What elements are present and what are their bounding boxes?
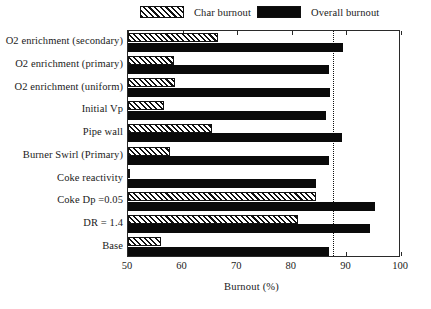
- x-tick-label: 90: [340, 260, 351, 271]
- legend-label-char-burnout: Char burnout: [194, 7, 251, 18]
- chart-legend: Char burnout Overall burnout: [0, 4, 431, 26]
- bar-overall-burnout: [128, 43, 343, 52]
- bar-overall-burnout: [128, 247, 329, 256]
- bar-char-burnout: [128, 56, 174, 65]
- bar-group: [128, 33, 399, 52]
- bar-group: [128, 147, 399, 166]
- bar-char-burnout: [128, 147, 170, 156]
- category-label: Pipe wall: [0, 126, 123, 137]
- x-tick-label: 100: [392, 260, 408, 271]
- bar-overall-burnout: [128, 133, 342, 142]
- category-label: Initial Vp: [0, 103, 123, 114]
- bar-overall-burnout: [128, 111, 326, 120]
- hatched-swatch-icon: [140, 6, 184, 18]
- bar-char-burnout: [128, 33, 218, 42]
- bar-char-burnout: [128, 124, 212, 133]
- bar-overall-burnout: [128, 179, 316, 188]
- x-axis-tick-labels: 5060708090100: [0, 260, 431, 276]
- bar-overall-burnout: [128, 202, 375, 211]
- x-axis-title: Burnout (%): [0, 281, 431, 292]
- plot-area: [127, 30, 400, 257]
- legend-label-overall-burnout: Overall burnout: [311, 7, 379, 18]
- bar-group: [128, 124, 399, 143]
- legend-entry-char-burnout: Char burnout: [140, 6, 251, 18]
- bar-char-burnout: [128, 78, 175, 87]
- bar-char-burnout: [128, 192, 316, 201]
- burnout-bar-chart: Char burnout Overall burnout O2 enrichme…: [0, 0, 431, 309]
- bar-group: [128, 169, 399, 188]
- category-label: Coke reactivity: [0, 172, 123, 183]
- category-label: O2 enrichment (secondary): [0, 35, 123, 46]
- category-label: Base: [0, 240, 123, 251]
- x-tick-mark: [401, 31, 402, 35]
- category-axis-labels: O2 enrichment (secondary) O2 enrichment …: [0, 30, 123, 257]
- bar-overall-burnout: [128, 65, 329, 74]
- x-tick-label: 60: [176, 260, 187, 271]
- category-label: Coke Dp =0.05: [0, 194, 123, 205]
- bar-overall-burnout: [128, 156, 329, 165]
- bar-overall-burnout: [128, 88, 330, 97]
- x-tick-mark: [401, 252, 402, 256]
- category-label: Burner Swirl (Primary): [0, 149, 123, 160]
- bar-group: [128, 101, 399, 120]
- bar-group: [128, 56, 399, 75]
- bar-series-container: [128, 31, 399, 256]
- bar-char-burnout: [128, 237, 161, 246]
- bar-char-burnout: [128, 169, 130, 178]
- category-label: O2 enrichment (uniform): [0, 81, 123, 92]
- x-tick-label: 80: [286, 260, 297, 271]
- bar-group: [128, 192, 399, 211]
- legend-entry-overall-burnout: Overall burnout: [257, 6, 379, 18]
- bar-char-burnout: [128, 101, 164, 110]
- x-axis-title-text: Burnout (%): [224, 281, 279, 292]
- x-tick-label: 50: [122, 260, 133, 271]
- solid-black-swatch-icon: [257, 6, 301, 18]
- bar-overall-burnout: [128, 224, 370, 233]
- category-label: O2 enrichment (primary): [0, 58, 123, 69]
- bar-group: [128, 215, 399, 234]
- x-tick-label: 70: [231, 260, 242, 271]
- category-label: DR = 1.4: [0, 217, 123, 228]
- bar-group: [128, 237, 399, 256]
- bar-group: [128, 78, 399, 97]
- bar-char-burnout: [128, 215, 298, 224]
